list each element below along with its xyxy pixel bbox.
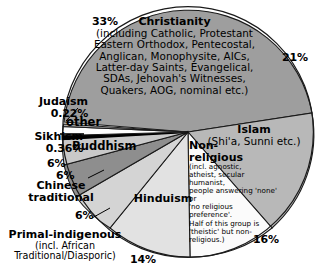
slice-detail-primal-indigenous: (incl. African Traditional/Diasporic) xyxy=(2,241,128,262)
percent-label-hinduism: 14% xyxy=(130,254,156,266)
slice-title-primal-indigenous: Primal-indigenous xyxy=(2,229,128,241)
slice-title-christianity: Christianity xyxy=(93,16,256,28)
slice-title-islam: Islam xyxy=(204,124,304,136)
slice-detail-christianity: (including Catholic, Protestant Eastern … xyxy=(93,28,256,97)
slice-title-non-religious: Non- religious xyxy=(189,140,277,163)
percent-label-primal-indigenous: 6% xyxy=(75,210,93,222)
non-religious-detail-line-2: atheist, secular humanist, xyxy=(189,171,277,187)
slice-label-christianity: Christianity (including Catholic, Protes… xyxy=(93,16,256,96)
non-religious-detail-line-3: people answering 'none' or xyxy=(189,187,277,203)
percent-label-islam: 21% xyxy=(282,52,308,64)
christianity-detail-line-6: Quakers, AOG, nominal etc.) xyxy=(93,85,256,96)
non-religious-detail-line-7: religious.) xyxy=(189,236,277,244)
slice-label-hinduism: Hinduism xyxy=(125,193,201,205)
slice-title-other: other xyxy=(66,116,101,128)
non-religious-title-line-1: Non- xyxy=(189,140,277,152)
christianity-detail-line-2: Eastern Orthodox, Pentecostal, xyxy=(93,39,256,50)
slice-label-non-religious: Non- religious (incl. agnostic, atheist,… xyxy=(189,140,277,244)
slice-title-hinduism: Hinduism xyxy=(125,193,201,205)
chinese-title-line-2: traditional xyxy=(22,192,100,204)
slice-title-buddhism: Buddhism xyxy=(72,140,136,152)
primal-detail-line-2: Traditional/Diasporic) xyxy=(2,251,128,262)
slice-detail-non-religious: (incl. agnostic, atheist, secular humani… xyxy=(189,163,277,244)
non-religious-detail-line-4: 'no religious preference'. xyxy=(189,203,277,219)
pie-chart-world-religions: 33% Christianity (including Catholic, Pr… xyxy=(0,0,322,279)
slice-title-judaism: Judaism xyxy=(14,96,88,108)
slice-label-chinese-traditional: Chinese traditional xyxy=(22,180,100,204)
percent-label-buddhism: 6% xyxy=(47,158,65,170)
slice-label-primal-indigenous: Primal-indigenous (incl. African Traditi… xyxy=(2,229,128,262)
